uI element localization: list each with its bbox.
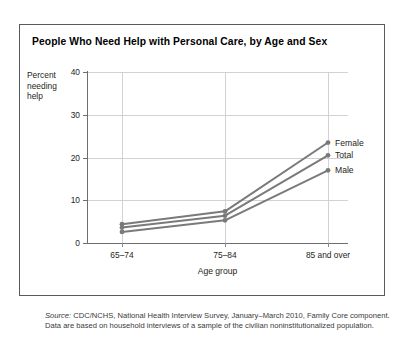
data-point-total: [223, 213, 228, 218]
series-lines: [87, 72, 348, 243]
data-point-male: [120, 229, 125, 234]
y-tick-label: 10: [71, 195, 80, 205]
data-point-male: [223, 218, 228, 223]
cropped-caption-line: person who lives in a nursing home.: [0, 0, 403, 12]
x-axis-line: [87, 243, 348, 244]
y-axis-title: Percent needing help: [27, 70, 75, 102]
legend-label-total: Total: [335, 150, 353, 160]
legend-label-female: Female: [335, 138, 364, 148]
x-axis-title: Age group: [87, 266, 348, 276]
y-axis-title-line-2: needing: [27, 81, 75, 92]
y-tick-label: 0: [75, 238, 80, 248]
y-tick-mark: [83, 243, 87, 244]
source-label: Source:: [45, 311, 71, 320]
plot-area: 010203040 65–7475–8485 and over FemaleTo…: [87, 72, 348, 243]
chart-title: People Who Need Help with Personal Care,…: [32, 36, 327, 47]
y-axis-title-line-1: Percent: [27, 70, 75, 81]
data-point-female: [223, 209, 228, 214]
y-tick-label: 20: [71, 153, 80, 163]
figure-container: People Who Need Help with Personal Care,…: [19, 24, 385, 296]
x-tick-label: 65–74: [110, 250, 133, 260]
legend-label-male: Male: [335, 165, 354, 175]
data-point-female: [326, 140, 331, 145]
x-tick-mark: [122, 243, 123, 247]
source-note: Source: CDC/NCHS, National Health Interv…: [45, 311, 397, 331]
y-tick-label: 30: [71, 110, 80, 120]
y-tick-label: 40: [71, 67, 80, 77]
data-point-total: [120, 225, 125, 230]
x-tick-label: 85 and over: [306, 250, 350, 260]
source-text: CDC/NCHS, National Health Interview Surv…: [45, 311, 390, 330]
x-tick-mark: [328, 243, 329, 247]
x-tick-label: 75–84: [213, 250, 236, 260]
x-tick-mark: [225, 243, 226, 247]
data-point-total: [326, 153, 331, 158]
y-axis-title-line-3: help: [27, 91, 75, 102]
data-point-male: [326, 168, 331, 173]
